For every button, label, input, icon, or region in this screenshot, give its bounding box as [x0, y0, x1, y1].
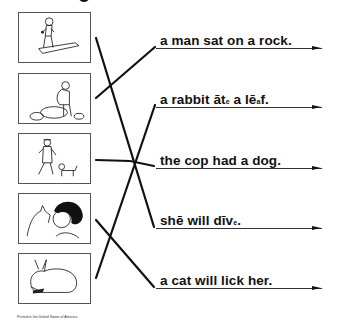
match-line-cat[interactable] [96, 220, 154, 287]
arrow-icon [312, 226, 321, 230]
picture-cop-with-dog [18, 133, 91, 184]
arrow-icon [312, 46, 321, 50]
answer-underline-1 [156, 48, 322, 49]
answer-underline-2 [156, 107, 322, 108]
cop-with-dog-icon [19, 134, 90, 183]
man-on-rock-icon [19, 74, 90, 123]
match-line-dive[interactable] [96, 38, 154, 227]
answer-underline-3 [156, 168, 322, 169]
girl-with-cat-icon [19, 194, 90, 243]
arrow-icon [312, 105, 321, 109]
printed-in-footer: Printed in the United States of America [17, 315, 77, 319]
picture-man-on-rock [18, 73, 91, 124]
sentence-cop-had-dog: the cop had a dog. [160, 154, 281, 168]
picture-rabbit [18, 253, 91, 304]
answer-underline-5 [156, 288, 322, 289]
answer-underline-4 [156, 228, 322, 229]
top-ink-mark [79, 0, 89, 2]
picture-girl-with-cat [18, 193, 91, 244]
match-line-rabbit[interactable] [96, 105, 155, 278]
match-line-rock[interactable] [96, 47, 155, 98]
arrow-icon [312, 286, 321, 290]
sentence-cat-will-lick: a cat will lick her. [160, 274, 272, 288]
boy-diving-board-icon [19, 13, 90, 62]
sentence-man-sat-on-rock: a man sat on a rock. [160, 34, 292, 48]
rabbit-eating-icon [19, 254, 90, 303]
match-line-cop[interactable] [96, 160, 154, 166]
picture-boy-diving [18, 12, 91, 63]
arrow-icon [312, 166, 321, 170]
